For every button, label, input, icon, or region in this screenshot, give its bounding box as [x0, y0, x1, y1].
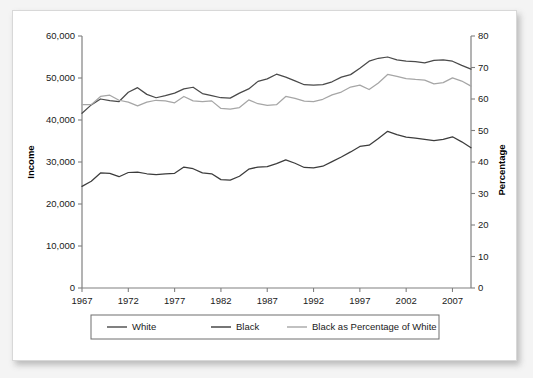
series-group — [82, 57, 471, 186]
x-axis-tick-label: 1977 — [164, 295, 185, 306]
legend-label-2: Black as Percentage of White — [312, 321, 437, 332]
screenshot-root: 010,00020,00030,00040,00050,00060,000 01… — [0, 0, 533, 378]
x-axis-tick-label: 1967 — [71, 295, 92, 306]
right-axis-tick-label: 30 — [478, 188, 489, 199]
right-axis-tick-label: 20 — [478, 219, 489, 230]
legend-label-1: Black — [236, 321, 259, 332]
right-axis-tick-label: 60 — [478, 93, 489, 104]
series-line-black — [82, 131, 471, 186]
left-axis: 010,00020,00030,00040,00050,00060,000 — [46, 30, 82, 293]
left-axis-tick-label: 20,000 — [46, 198, 75, 209]
axis-titles: IncomePercentage — [25, 144, 507, 195]
chart-card: 010,00020,00030,00040,00050,00060,000 01… — [12, 10, 517, 361]
chart-figure: 010,00020,00030,00040,00050,00060,000 01… — [13, 11, 518, 362]
right-axis-tick-label: 40 — [478, 156, 489, 167]
left-axis-tick-label: 30,000 — [46, 156, 75, 167]
x-axis-tick-label: 1972 — [118, 295, 139, 306]
right-axis-tick-label: 80 — [478, 30, 489, 41]
right-axis-tick-label: 0 — [478, 282, 483, 293]
x-axis-tick-label: 1997 — [349, 295, 370, 306]
x-axis-tick-label: 1982 — [210, 295, 231, 306]
left-axis-tick-label: 10,000 — [46, 240, 75, 251]
right-axis: 01020304050607080 — [471, 30, 489, 293]
x-axis: 196719721977198219871992199720022007 — [71, 288, 471, 306]
left-axis-title: Income — [25, 145, 36, 178]
left-axis-tick-label: 0 — [70, 282, 75, 293]
x-axis-tick-label: 2007 — [442, 295, 463, 306]
left-axis-tick-label: 60,000 — [46, 30, 75, 41]
right-axis-tick-label: 50 — [478, 125, 489, 136]
x-axis-tick-label: 1992 — [303, 295, 324, 306]
right-axis-tick-label: 10 — [478, 251, 489, 262]
x-axis-tick-label: 1987 — [257, 295, 278, 306]
chart-legend: WhiteBlackBlack as Percentage of White — [91, 315, 439, 339]
series-line-black-as-percentage-of-white — [82, 74, 471, 109]
right-axis-tick-label: 70 — [478, 62, 489, 73]
x-axis-tick-label: 2002 — [396, 295, 417, 306]
right-axis-title: Percentage — [496, 144, 507, 195]
line-chart: 010,00020,00030,00040,00050,00060,000 01… — [13, 11, 518, 362]
legend-label-0: White — [132, 321, 156, 332]
left-axis-tick-label: 40,000 — [46, 114, 75, 125]
left-axis-tick-label: 50,000 — [46, 72, 75, 83]
